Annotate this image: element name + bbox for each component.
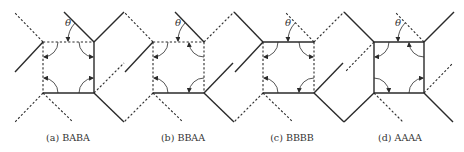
angle-arc-bottom-right [299, 78, 314, 92]
panel-b: θ [124, 12, 234, 122]
leg-line [424, 93, 453, 122]
leg-line [234, 93, 263, 122]
caption-a: (a) BABA [46, 132, 90, 143]
leg-line [15, 93, 43, 122]
captions-group: (a) BABA (b) BBAA (c) BBBB (d) AAAA [46, 132, 422, 143]
angle-arc-bottom-left [374, 78, 389, 92]
leg-line [374, 93, 403, 122]
panel-c: θ [234, 12, 344, 122]
angle-arc-top-left [44, 42, 58, 57]
theta-label: θ [175, 17, 181, 28]
leg-line [124, 93, 153, 122]
leg-line [235, 42, 263, 72]
angle-arc-top-left [264, 42, 278, 57]
leg-line [94, 93, 124, 122]
angle-arc-top-right [189, 43, 204, 57]
leg-line [125, 42, 153, 72]
leg-line [344, 93, 374, 122]
panels-group: θθθθ [14, 12, 454, 122]
leg-line [314, 12, 344, 42]
leg-line [314, 93, 344, 122]
angle-arc-bottom-left [154, 78, 168, 93]
angle-arc-bottom-right [409, 78, 423, 93]
angle-arc-top-right [299, 42, 313, 57]
angle-arc-top-right [409, 43, 424, 57]
leg-line [153, 93, 183, 122]
leg-line [204, 93, 234, 122]
theta-label: θ [285, 17, 291, 28]
leg-line [424, 63, 453, 93]
leg-line [15, 42, 43, 72]
leg-line [314, 63, 343, 93]
angle-arc-top-left [154, 42, 168, 57]
leg-line [234, 12, 263, 42]
leg-line [94, 63, 124, 93]
panel-d: θ [344, 12, 454, 122]
leg-line [424, 12, 454, 42]
caption-b: (b) BBAA [161, 132, 205, 143]
leg-line [263, 93, 293, 122]
figure-canvas: θθθθ (a) BABA (b) BBAA (c) BBBB (d) AAAA [0, 0, 464, 152]
leg-line [204, 12, 234, 42]
angle-arc-bottom-right [189, 78, 204, 92]
panel-a: θ [14, 12, 124, 122]
angle-arc-top-right [79, 42, 93, 57]
angle-arc-bottom-right [79, 78, 93, 93]
leg-line [124, 12, 153, 42]
leg-line [43, 93, 73, 122]
caption-c: (c) BBBB [270, 132, 314, 143]
angle-arc-bottom-left [264, 78, 278, 93]
leg-line [14, 12, 43, 42]
angle-arc-bottom-left [44, 78, 58, 93]
leg-line [345, 42, 374, 72]
leg-line [94, 12, 124, 42]
leg-line [344, 12, 374, 42]
angle-arc-top-left [375, 42, 389, 57]
theta-label: θ [65, 17, 71, 28]
leg-line [204, 63, 233, 93]
caption-d: (d) AAAA [378, 132, 422, 143]
theta-label: θ [395, 17, 401, 28]
